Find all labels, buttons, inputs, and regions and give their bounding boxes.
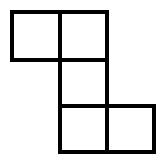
grid-square-1 — [58, 10, 109, 62]
grid-square-0 — [10, 10, 62, 62]
grid-square-2 — [58, 58, 109, 108]
grid-square-3 — [58, 104, 109, 154]
grid-square-4 — [105, 104, 156, 154]
